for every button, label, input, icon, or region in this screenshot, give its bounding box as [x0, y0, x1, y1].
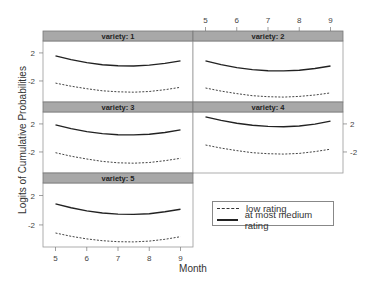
- svg-text:2: 2: [31, 49, 36, 58]
- panel-title: variety: 3: [102, 103, 135, 112]
- svg-text:2: 2: [350, 120, 355, 129]
- svg-text:-2: -2: [28, 148, 36, 157]
- svg-text:6: 6: [235, 16, 240, 25]
- solid-line-swatch-icon: [217, 219, 238, 221]
- legend: low rating at most medium rating: [212, 201, 334, 226]
- legend-label: at most medium rating: [245, 209, 333, 231]
- svg-text:2: 2: [31, 192, 36, 201]
- svg-text:7: 7: [116, 254, 121, 263]
- svg-text:-2: -2: [28, 77, 36, 86]
- svg-text:8: 8: [147, 254, 152, 263]
- svg-text:9: 9: [178, 254, 183, 263]
- svg-text:6: 6: [85, 254, 90, 263]
- svg-text:7: 7: [266, 16, 271, 25]
- y-axis-label: Logits of Cumulative Probabilities: [17, 66, 28, 214]
- svg-text:5: 5: [53, 254, 58, 263]
- svg-text:-2: -2: [28, 221, 36, 230]
- panel-1: variety: 12-2: [28, 31, 193, 102]
- svg-text:2: 2: [31, 120, 36, 129]
- svg-text:8: 8: [297, 16, 302, 25]
- svg-text:9: 9: [328, 16, 333, 25]
- panel-title: variety: 1: [102, 32, 135, 41]
- panel-title: variety: 4: [252, 103, 286, 112]
- trellis-chart: variety: 12-2variety: 256789variety: 32-…: [0, 0, 373, 291]
- svg-text:-2: -2: [350, 148, 358, 157]
- panel-2: variety: 256789: [193, 16, 343, 102]
- svg-text:5: 5: [203, 16, 208, 25]
- panel-5: variety: 52-256789: [28, 173, 193, 263]
- panel-title: variety: 5: [102, 174, 135, 183]
- panel-3: variety: 32-2: [28, 102, 193, 173]
- x-axis-label: Month: [179, 263, 207, 274]
- legend-entry-medium: at most medium rating: [213, 214, 333, 225]
- panel-4: variety: 42-2: [193, 102, 358, 173]
- dashed-line-swatch-icon: [217, 208, 239, 209]
- panel-title: variety: 2: [252, 32, 285, 41]
